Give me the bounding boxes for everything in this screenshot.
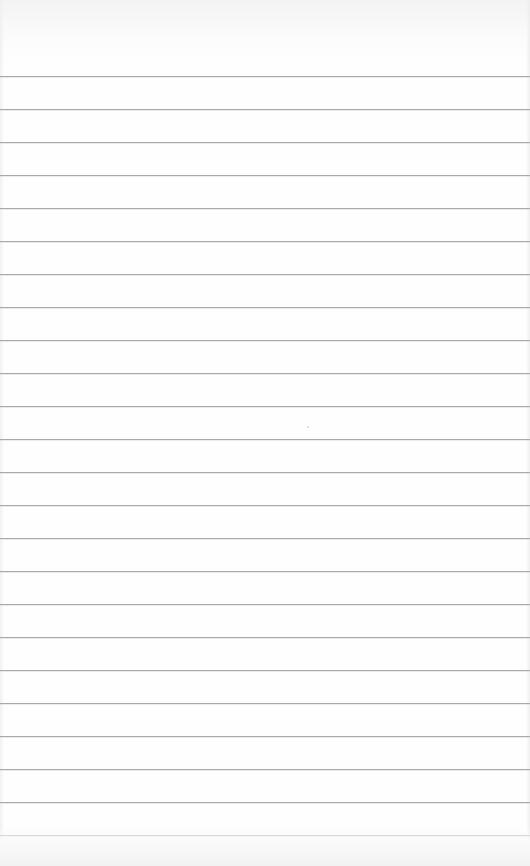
lined-paper-page (0, 0, 530, 866)
ruled-line (0, 736, 530, 737)
ruled-line (0, 142, 530, 143)
ruled-line (0, 802, 530, 803)
ruled-line (0, 472, 530, 473)
ruled-line (0, 307, 530, 308)
ruled-line (0, 406, 530, 407)
ruled-line (0, 241, 530, 242)
ruled-line (0, 571, 530, 572)
ruled-line (0, 670, 530, 671)
ruled-line (0, 835, 530, 836)
paper-speck (307, 426, 309, 428)
ruled-line (0, 373, 530, 374)
ruled-line (0, 769, 530, 770)
ruled-line (0, 76, 530, 77)
ruled-line (0, 703, 530, 704)
ruled-line (0, 274, 530, 275)
ruled-line (0, 604, 530, 605)
ruled-line (0, 505, 530, 506)
ruled-line (0, 175, 530, 176)
ruled-line (0, 109, 530, 110)
ruled-line (0, 538, 530, 539)
ruled-line (0, 208, 530, 209)
ruled-line (0, 439, 530, 440)
ruled-line (0, 637, 530, 638)
ruled-line (0, 340, 530, 341)
